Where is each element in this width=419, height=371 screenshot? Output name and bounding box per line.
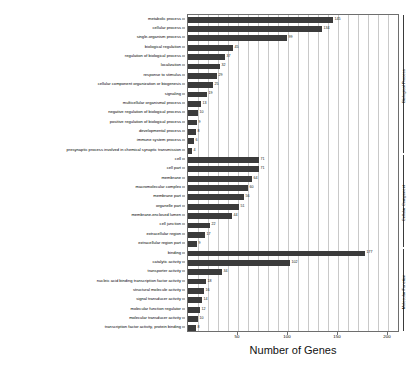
category-tick [182,28,185,29]
bar-value-label: 44 [232,214,238,218]
bar [188,251,365,257]
category-tick [182,317,185,318]
category-label: membrane-enclosed lumen [131,213,181,217]
go-enrichment-bar-chart: metabolic processcellular processsingle-… [0,0,419,371]
bar-row: 4 [188,148,398,154]
category-tick [182,112,185,113]
category-tick [182,46,185,47]
bar [188,316,198,322]
bar-row: 64 [188,176,398,182]
bar-value-label: 64 [252,177,258,181]
category-tick [182,149,185,150]
bar-row: 37 [188,54,398,60]
bar-row: 145 [188,17,398,23]
category-tick [182,299,185,300]
category-tick [182,205,185,206]
bar [188,26,322,32]
bar-row: 25 [188,82,398,88]
category-label: metabolic process [148,17,181,21]
bar-row: 16 [188,288,398,294]
category-label: biological regulation [145,45,181,49]
x-tick-label: 100 [283,335,290,339]
bar [188,73,217,79]
category-label: structural molecule activity [133,288,181,292]
x-tick-label: 50 [235,335,240,339]
category-tick [182,271,185,272]
category-label: catalytic activity [153,260,181,264]
bar [188,45,233,51]
bar-value-label: 14 [202,298,208,302]
bar-value-label: 32 [220,65,226,69]
category-tick [182,37,185,38]
category-tick [182,252,185,253]
category-label: organelle part [156,204,181,208]
category-label: membrane part [153,194,181,198]
bar [188,64,220,70]
bar [188,204,239,210]
bar-row: 134 [188,26,398,32]
bar-value-label: 19 [207,93,213,97]
category-label: signal transducer activity [136,297,181,301]
bar [188,297,202,303]
ontology-group: Molecular Function [400,249,419,331]
category-label: transporter activity [148,269,181,273]
bar [188,120,197,126]
bar [188,223,210,229]
group-label: Biological Process [402,69,406,102]
category-label: molecular function regulator [130,307,181,311]
category-label: immune system process [137,138,181,142]
bar [188,241,197,247]
bar-row: 17 [188,232,398,238]
bar-value-label: 99 [287,37,293,41]
bar-value-label: 134 [322,27,330,31]
category-label: cellular component organization or bioge… [98,82,181,86]
category-tick [182,196,185,197]
category-tick [182,74,185,75]
bar-value-label: 9 [197,242,201,246]
bar-value-label: 18 [206,280,212,284]
bar-row: 14 [188,297,398,303]
bar-row: 19 [188,92,398,98]
plot-area: 1451349945373229251913109864717164605651… [187,14,399,332]
category-tick [182,84,185,85]
bar-row: 10 [188,110,398,116]
bar-row: 18 [188,279,398,285]
x-tick-label: 150 [333,335,340,339]
bar [188,185,248,191]
category-tick [182,280,185,281]
bar [188,213,232,219]
bar-row: 8 [188,325,398,331]
category-label: developmental process [139,129,181,133]
bar-value-label: 10 [198,317,204,321]
category-label: regulation of biological process [125,54,181,58]
bar [188,194,244,200]
bar-value-label: 71 [259,168,265,172]
bar [188,269,222,275]
x-axis-title: Number of Genes [187,344,399,356]
bar-row: 177 [188,251,398,257]
bar-value-label: 102 [290,261,298,265]
bar-row: 13 [188,101,398,107]
bar-value-label: 12 [200,308,206,312]
bar-row: 32 [188,64,398,70]
bar-value-label: 145 [333,18,341,22]
category-label: cell [175,157,181,161]
bar-row: 29 [188,73,398,79]
category-tick [182,65,185,66]
bar-value-label: 29 [217,74,223,78]
bar [188,92,207,98]
bar [188,260,290,266]
category-label: negative regulation of biological proces… [108,110,181,114]
category-tick [182,289,185,290]
category-tick [182,121,185,122]
ontology-group: Biological Process [400,15,419,153]
bar [188,129,196,135]
category-label: molecular transducer activity [129,316,181,320]
bar [188,157,259,163]
category-tick [182,224,185,225]
category-tick [182,18,185,19]
ontology-group-brackets: Biological ProcessCellular ComponentMole… [400,14,419,332]
gridline [398,15,399,331]
category-label: multicellular organismal process [123,101,181,105]
category-label: membrane [161,176,181,180]
